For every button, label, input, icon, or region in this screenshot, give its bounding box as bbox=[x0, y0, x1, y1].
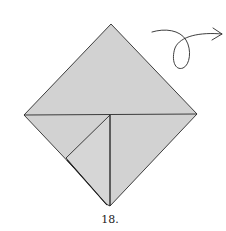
step-number: 18. bbox=[0, 213, 220, 226]
diagram-graphic bbox=[0, 0, 226, 231]
origami-diagram: 18. bbox=[0, 0, 226, 231]
loop-arrow-icon bbox=[152, 28, 222, 68]
